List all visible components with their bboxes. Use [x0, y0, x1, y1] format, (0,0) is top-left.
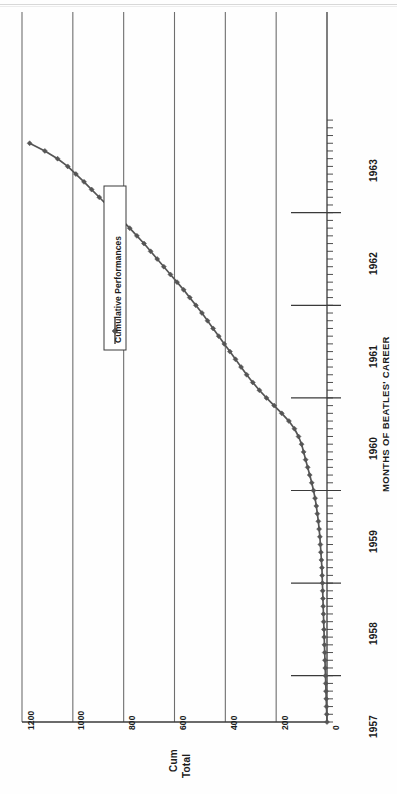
chart-page: 020040060080010001200 195719581959196019… [0, 0, 397, 794]
y-tick-label-1200: 1200 [26, 711, 36, 730]
series-marker-diamond [324, 712, 329, 717]
y-tick-label-200: 200 [280, 716, 290, 730]
x-tick-label-1959: 1959 [368, 530, 379, 553]
x-axis-title: MONTHS OF BEATLES' CAREER [380, 336, 391, 492]
y-tick-label-800: 800 [127, 716, 137, 730]
series-marker-diamond [321, 627, 326, 632]
series-marker-diamond [322, 642, 327, 647]
x-tick-label-1961: 1961 [368, 345, 379, 368]
series-marker-diamond [319, 557, 324, 562]
x-tick-label-1960: 1960 [368, 437, 379, 460]
y-axis-title-line1: Cum [168, 749, 179, 772]
series-marker-diamond [321, 611, 326, 616]
x-tick-label-1963: 1963 [368, 159, 379, 182]
series-marker-diamond [320, 596, 325, 601]
series-marker-diamond [325, 720, 330, 725]
series-marker-diamond [299, 442, 304, 447]
series-marker-diamond [323, 689, 328, 694]
series-marker-diamond [324, 696, 329, 701]
series-marker-diamond [314, 503, 319, 508]
y-tick-label-600: 600 [178, 716, 188, 730]
series-marker-diamond [324, 704, 329, 709]
series-marker-diamond [317, 527, 322, 532]
series-marker-diamond [322, 635, 327, 640]
series-marker-diamond [321, 619, 326, 624]
series-marker-diamond [320, 581, 325, 586]
series-marker-diamond [321, 604, 326, 609]
series-marker-diamond [311, 488, 316, 493]
series-marker-diamond [317, 534, 322, 539]
series-marker-diamond [320, 573, 325, 578]
x-tick-label-1958: 1958 [368, 622, 379, 645]
cumulative-performances-chart [0, 0, 397, 794]
series-marker-diamond [315, 511, 320, 516]
series-marker-diamond [309, 480, 314, 485]
series-marker-diamond [301, 449, 306, 454]
series-line-cumulative-performances [30, 143, 327, 722]
y-tick-label-1000: 1000 [76, 711, 86, 730]
series-marker-diamond [318, 550, 323, 555]
y-tick-label-0: 0 [331, 725, 341, 730]
series-marker-diamond [303, 457, 308, 462]
series-marker-diamond [318, 542, 323, 547]
y-tick-label-400: 400 [229, 716, 239, 730]
series-marker-diamond [305, 465, 310, 470]
series-marker-diamond [319, 565, 324, 570]
x-tick-label-1957: 1957 [368, 715, 379, 738]
series-marker-diamond [316, 519, 321, 524]
series-marker-diamond [313, 496, 318, 501]
series-marker-diamond [320, 588, 325, 593]
series-marker-diamond [307, 473, 312, 478]
x-tick-label-1962: 1962 [368, 252, 379, 275]
y-axis-title-line2: Total [181, 754, 192, 778]
legend-entry-label: Cumulative Performances [113, 236, 123, 343]
